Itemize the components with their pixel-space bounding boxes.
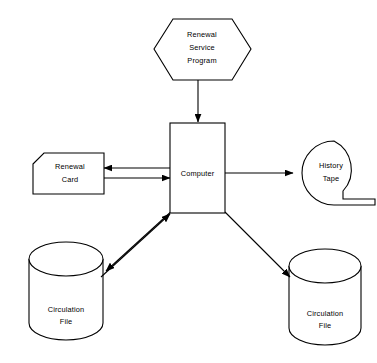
node-renewal-card[interactable]: Renewal Card [33, 153, 104, 194]
node-circulation-file-left[interactable]: Circulation File [29, 242, 103, 340]
circulation-file-right-label-line-2: File [319, 321, 332, 330]
circulation-file-left-label-line-1: Circulation [48, 305, 85, 314]
renewal-card-label-line-1: Renewal [55, 162, 85, 171]
node-circulation-file-right[interactable]: Circulation File [289, 249, 361, 345]
circulation-file-left-label-line-2: File [60, 317, 73, 326]
flowchart-canvas: Renewal Service Program Computer Renewal… [0, 0, 377, 363]
circulation-file-right-label-line-1: Circulation [307, 309, 344, 318]
renewal-service-program-label-line-3: Program [187, 56, 216, 65]
renewal-service-program-label-line-1: Renewal [187, 30, 217, 39]
connector-computer-to-circulation-left [106, 209, 174, 271]
history-tape-label-line-1: History [319, 161, 343, 170]
node-computer[interactable]: Computer [170, 123, 225, 213]
renewal-card-label-line-2: Card [62, 175, 79, 184]
node-renewal-service-program[interactable]: Renewal Service Program [154, 19, 251, 80]
computer-label: Computer [181, 169, 215, 178]
connector-circulation-left-to-computer [101, 214, 170, 277]
history-tape-label-line-2: Tape [323, 174, 340, 183]
system-flowchart: Renewal Service Program Computer Renewal… [0, 0, 377, 363]
renewal-service-program-label-line-2: Service [189, 43, 215, 52]
connector-computer-to-circulation-right [225, 212, 290, 277]
node-history-tape[interactable]: History Tape [302, 141, 375, 205]
